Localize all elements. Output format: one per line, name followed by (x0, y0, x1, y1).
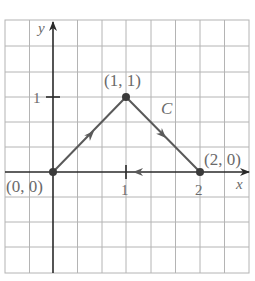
point-label-1-1: (1, 1) (104, 71, 141, 90)
y-axis-label: y (36, 20, 45, 36)
x-tick-label-1: 1 (121, 182, 129, 198)
curve-diagram: y x 1 1 2 (0, 0) (1, 1) (2, 0) C (0, 0, 255, 281)
grid (5, 20, 249, 273)
point-label-2-0: (2, 0) (204, 150, 241, 169)
point-1-1 (122, 93, 130, 101)
x-axis-label: x (235, 176, 243, 192)
y-tick-label-1: 1 (33, 90, 41, 106)
point-label-origin: (0, 0) (6, 177, 43, 196)
point-origin (49, 168, 57, 176)
point-2-0 (196, 168, 204, 176)
x-tick-label-2: 2 (195, 182, 203, 198)
curve-label: C (161, 99, 173, 118)
